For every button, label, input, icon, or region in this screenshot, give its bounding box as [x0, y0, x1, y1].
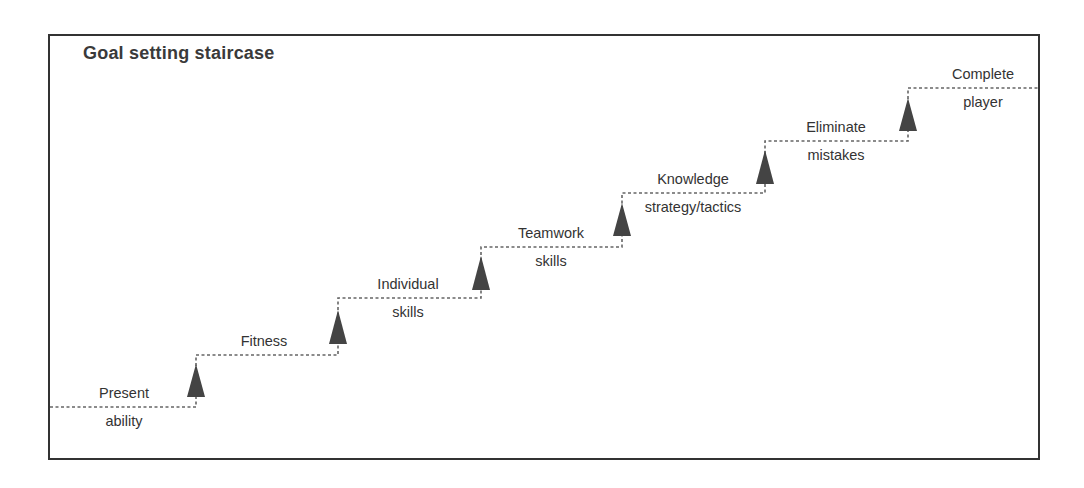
step-7-bottom: player: [963, 94, 1003, 110]
step-4-top: Teamwork: [518, 225, 584, 241]
step-5-bottom: strategy/tactics: [645, 199, 742, 215]
staircase-path: [0, 0, 1084, 488]
step-2-top: Fitness: [241, 333, 288, 349]
step-6-bottom: mistakes: [807, 147, 864, 163]
step-3-top: Individual: [377, 276, 438, 292]
step-4-bottom: skills: [535, 253, 566, 269]
step-3-bottom: skills: [392, 304, 423, 320]
step-1-top: Present: [99, 385, 149, 401]
step-1-bottom: ability: [105, 413, 142, 429]
up-triangle-icon: [613, 203, 631, 236]
up-triangle-icon: [756, 150, 774, 184]
step-6-top: Eliminate: [806, 119, 866, 135]
step-5-top: Knowledge: [657, 171, 729, 187]
up-triangle-icon: [329, 310, 347, 344]
step-7-top: Complete: [952, 66, 1014, 82]
up-triangle-icon: [899, 98, 917, 131]
up-triangle-icon: [472, 256, 490, 290]
up-triangle-icon: [187, 364, 205, 397]
